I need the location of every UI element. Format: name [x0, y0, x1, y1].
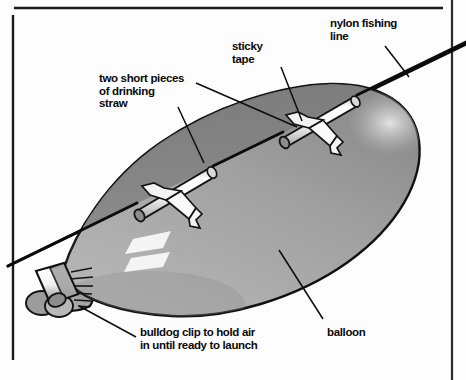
label-balloon: balloon: [327, 326, 365, 339]
label-drinking-straw: two short pieces of drinking straw: [99, 72, 184, 110]
label-nylon-fishing-line: nylon fishing line: [330, 17, 397, 42]
label-sticky-tape: sticky tape: [232, 40, 263, 65]
balloon-specular-glow: [348, 90, 432, 156]
label-bulldog-clip: bulldog clip to hold air in until ready …: [140, 326, 257, 351]
leader-nylon: [385, 46, 409, 77]
